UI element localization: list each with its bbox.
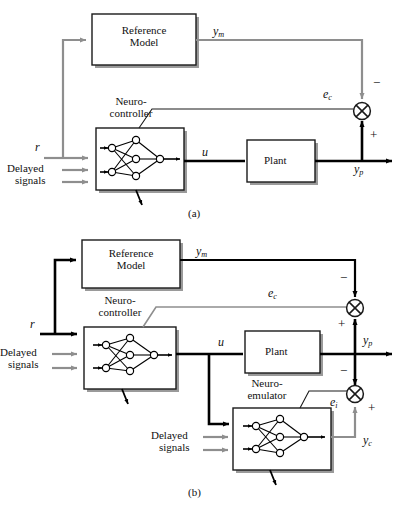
label-ec-a: ec xyxy=(323,88,332,103)
signal-ec-b xyxy=(143,307,347,327)
neurocontroller-label-a: Neuro- controller xyxy=(99,96,163,119)
signal-yc-b xyxy=(331,407,355,437)
label-yc-b: yc xyxy=(363,434,372,449)
label-r-b: r xyxy=(30,318,35,331)
label-delayed-signals-b: Delayed signals xyxy=(0,347,39,370)
caption-b: (b) xyxy=(188,487,201,499)
signal-delayed-b xyxy=(52,354,77,368)
reference-model-label-a: Reference Model xyxy=(111,25,177,48)
plant-label-b: Plant xyxy=(265,346,288,358)
signal-ec-a xyxy=(139,109,356,128)
label-ec-b: ec xyxy=(268,287,277,302)
plant-label-a: Plant xyxy=(264,155,287,167)
junction-identification-error-b xyxy=(347,386,364,403)
label-u-a: u xyxy=(202,146,208,159)
neuro-emulator-label-b: Neuro- emulator xyxy=(235,378,299,401)
label-delayed-signals-emulator-b: Delayed signals xyxy=(151,430,190,453)
neurocontroller-label-b: Neuro- controller xyxy=(88,295,152,318)
block-neurocontroller-a xyxy=(96,128,187,193)
sign-plus-a: + xyxy=(370,128,377,142)
signal-delayed-emulator-b xyxy=(203,437,228,450)
signal-delayed-a xyxy=(62,170,88,182)
label-u-b: u xyxy=(218,336,224,349)
sign-minus-bottom-b: − xyxy=(340,364,347,378)
sign-plus-top-b: + xyxy=(338,317,345,331)
signal-yp-b xyxy=(320,319,392,385)
label-r-a: r xyxy=(35,141,40,154)
label-yp-a: yp xyxy=(354,163,363,178)
label-ym-b: ym xyxy=(196,245,207,260)
junction-control-error-b xyxy=(347,300,364,317)
junction-control-error-a xyxy=(354,103,371,120)
label-ym-a: ym xyxy=(213,25,224,40)
signal-reference-b xyxy=(40,260,77,334)
label-delayed-signals-a: Delayed signals xyxy=(7,163,46,186)
label-yp-b: yp xyxy=(363,334,372,349)
sign-minus-a: − xyxy=(373,76,380,90)
sign-plus-bottom-b: + xyxy=(368,401,375,415)
sign-minus-top-b: − xyxy=(340,271,347,285)
caption-a: (a) xyxy=(188,208,200,220)
signal-ei-b xyxy=(300,391,349,408)
signal-yp-a xyxy=(315,121,392,161)
signal-reference-a xyxy=(44,40,88,158)
reference-model-label-b: Reference Model xyxy=(98,248,164,271)
signal-ym-a xyxy=(196,40,362,99)
label-ei-b: ei xyxy=(330,396,338,411)
panel-a xyxy=(44,14,392,205)
